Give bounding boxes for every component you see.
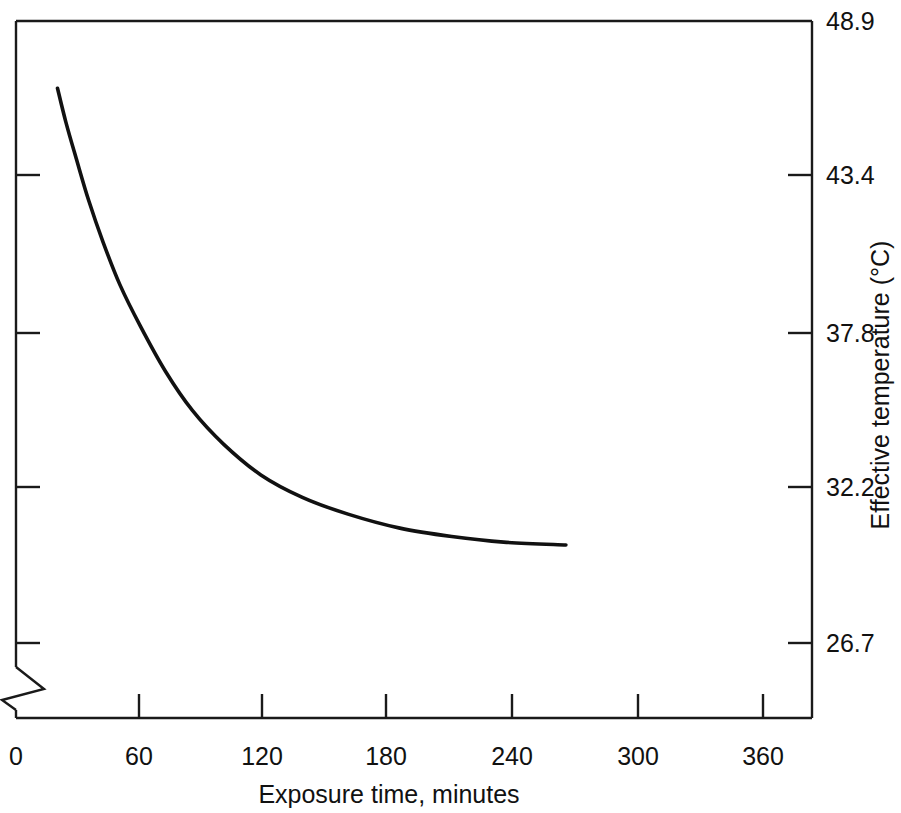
x-tick-label-60: 60	[125, 742, 153, 770]
data-series-line	[58, 88, 566, 545]
y-axis-title: Effective temperature (°C)	[866, 241, 894, 530]
x-axis-ticks	[139, 694, 763, 718]
chart-figure: 48.9 43.4 37.8 32.2 26.7 0 60 120 180 24…	[0, 0, 901, 813]
y-tick-label-43-4: 43.4	[826, 161, 875, 189]
axis-frame	[2, 21, 812, 718]
x-tick-label-300: 300	[617, 742, 659, 770]
x-axis-title: Exposure time, minutes	[258, 780, 519, 808]
y-axis-break-zigzag	[2, 667, 44, 710]
y-axis-left-ticks	[16, 175, 40, 643]
y-tick-label-26-7: 26.7	[826, 629, 875, 657]
x-tick-label-240: 240	[491, 742, 533, 770]
y-axis-right-ticks	[788, 175, 812, 643]
x-tick-label-0: 0	[9, 742, 23, 770]
x-tick-label-120: 120	[241, 742, 283, 770]
x-tick-label-180: 180	[365, 742, 407, 770]
x-axis-tick-labels: 0 60 120 180 240 300 360	[9, 742, 784, 770]
y-tick-label-48-9: 48.9	[826, 7, 875, 35]
line-chart-canvas: 48.9 43.4 37.8 32.2 26.7 0 60 120 180 24…	[0, 0, 901, 813]
x-tick-label-360: 360	[742, 742, 784, 770]
